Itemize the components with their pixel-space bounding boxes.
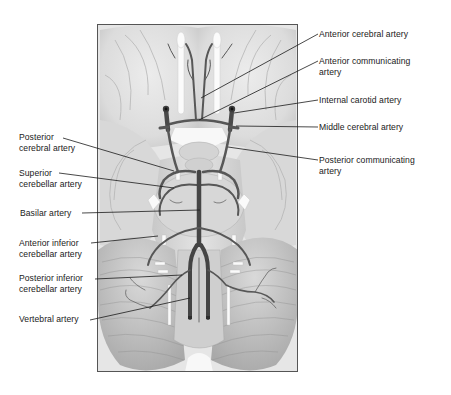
label-posterior-inferior-cerebellar-artery: Posterior inferior cerebellar artery (19, 273, 83, 295)
label-text: Posterior communicating (319, 155, 415, 166)
label-text: Basilar artery (20, 208, 71, 219)
label-text: Anterior communicating (319, 56, 410, 67)
label-text: cerebellar artery (19, 284, 83, 295)
label-text: Middle cerebral artery (319, 122, 403, 133)
label-text: Vertebral artery (19, 314, 79, 325)
label-text: cerebral artery (19, 143, 75, 154)
label-text: Anterior cerebral artery (319, 29, 408, 40)
label-middle-cerebral-artery: Middle cerebral artery (319, 122, 403, 133)
label-anterior-communicating-artery: Anterior communicating artery (319, 56, 410, 78)
label-anterior-cerebral-artery: Anterior cerebral artery (319, 29, 408, 40)
label-text: Superior (19, 168, 82, 179)
label-posterior-communicating-artery: Posterior communicating artery (319, 155, 415, 177)
label-text: Internal carotid artery (319, 95, 401, 106)
label-internal-carotid-artery: Internal carotid artery (319, 95, 401, 106)
brain-drawing (98, 24, 298, 372)
label-basilar-artery: Basilar artery (20, 208, 71, 219)
label-text: Posterior inferior (19, 273, 83, 284)
anatomy-diagram: Anterior cerebral artery Anterior commun… (0, 0, 451, 395)
label-superior-cerebellar-artery: Superior cerebellar artery (19, 168, 82, 190)
label-text: Posterior (19, 132, 75, 143)
label-text: cerebellar artery (19, 179, 82, 190)
label-anterior-inferior-cerebellar-artery: Anterior inferior cerebellar artery (19, 238, 82, 260)
label-text: artery (319, 67, 410, 78)
label-posterior-cerebral-artery: Posterior cerebral artery (19, 132, 75, 154)
label-text: artery (319, 166, 415, 177)
label-text: Anterior inferior (19, 238, 82, 249)
label-text: cerebellar artery (19, 249, 82, 260)
label-vertebral-artery: Vertebral artery (19, 314, 79, 325)
